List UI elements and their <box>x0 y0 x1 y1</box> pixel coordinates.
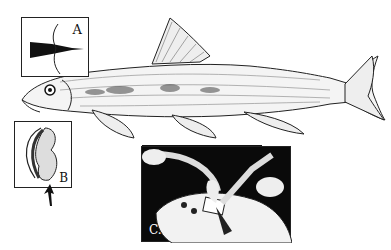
barbel-silhouette-icon <box>30 42 84 58</box>
panel-c-label: C. <box>149 223 162 237</box>
pelvic-fin <box>172 115 216 138</box>
panel-a-label: A <box>73 22 82 37</box>
dorsal-fin <box>152 18 210 64</box>
panel-b-label: B <box>59 171 68 185</box>
inset-panel-b: B <box>14 121 72 188</box>
anal-fin <box>244 112 304 134</box>
inset-panel-c: C. <box>141 146 291 242</box>
inset-panel-a: A <box>21 17 89 77</box>
